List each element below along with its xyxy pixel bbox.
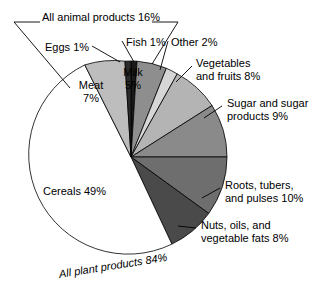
label-sugar-and-sugar-products: Sugar and sugar products 9% bbox=[227, 97, 331, 122]
label-sugar-line1: Sugar and sugar bbox=[227, 97, 331, 110]
label-nuts-line2: vegetable fats 8% bbox=[201, 232, 313, 245]
label-sugar-line2: products 9% bbox=[227, 110, 331, 123]
label-milk: Milk 5% bbox=[117, 66, 149, 91]
label-nuts-line1: Nuts, oils, and bbox=[201, 219, 313, 232]
label-cereals: Cereals 49% bbox=[43, 185, 106, 198]
label-milk-name: Milk bbox=[117, 66, 149, 79]
label-roots-tubers-and-pulses: Roots, tubers, and pulses 10% bbox=[225, 179, 329, 204]
label-vegetables-line2: and fruits 8% bbox=[196, 70, 306, 83]
label-meat-value: 7% bbox=[73, 92, 109, 105]
label-roots-line2: and pulses 10% bbox=[225, 192, 329, 205]
label-other: Other 2% bbox=[171, 36, 217, 49]
label-eggs: Eggs 1% bbox=[45, 41, 89, 54]
label-roots-line1: Roots, tubers, bbox=[225, 179, 329, 192]
label-milk-value: 5% bbox=[117, 79, 149, 92]
label-nuts-oils-and-vegetable-fats: Nuts, oils, and vegetable fats 8% bbox=[201, 219, 313, 244]
label-meat-name: Meat bbox=[73, 79, 109, 92]
label-fish: Fish 1% bbox=[126, 36, 166, 49]
pie-chart-figure: All animal products 16% All plant produc… bbox=[0, 0, 332, 301]
label-vegetables-and-fruits: Vegetables and fruits 8% bbox=[196, 57, 306, 82]
leader-eggs bbox=[92, 46, 120, 62]
label-meat: Meat 7% bbox=[73, 79, 109, 104]
label-vegetables-line1: Vegetables bbox=[196, 57, 306, 70]
label-all-animal-products: All animal products 16% bbox=[42, 11, 160, 24]
leader-animal-left bbox=[14, 22, 70, 88]
